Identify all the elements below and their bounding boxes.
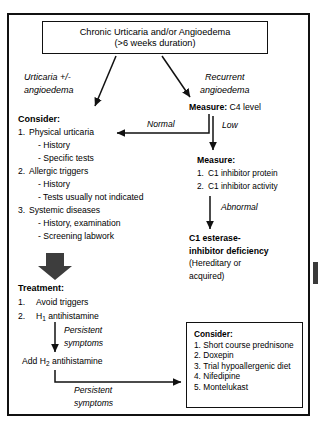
consider-box-item-1: 1. Short course prednisone	[194, 341, 302, 351]
left-item-1-text: Physical urticaria	[29, 127, 94, 137]
deficiency-line-1: C1 esterase-	[189, 233, 241, 243]
treatment-item-1-text: Avoid triggers	[36, 297, 88, 307]
consider-box-item-5: 5. Montelukast	[194, 383, 302, 393]
left-branch-label-line-2: angioedema	[24, 85, 74, 95]
title-line-1: Chronic Urticaria and/or Angioedema	[80, 27, 231, 38]
right-branch-label-line-1: Recurrent	[205, 72, 245, 82]
left-item-2-sub-1: - History	[38, 179, 70, 189]
add-h2-tail: antihistamine	[50, 356, 103, 366]
title-box: Chronic Urticaria and/or Angioedema (>6 …	[42, 21, 268, 54]
left-item-3-text: Systemic diseases	[29, 205, 100, 215]
add-h2-label: Add H	[22, 356, 46, 366]
consider-box-item-3: 3. Trial hypoallergenic diet	[194, 362, 302, 372]
consider-item-3-text: Trial hypoallergenic diet	[203, 361, 290, 371]
consider-item-4-text: Nifedipine	[203, 371, 240, 381]
consider-item-5-num: 5.	[194, 382, 201, 392]
consider-item-3-num: 3.	[194, 361, 201, 371]
deficiency-line-2: inhibitor deficiency	[189, 246, 269, 256]
measure-c4-label: Measure:	[189, 102, 227, 112]
left-branch-label-line-1: Urticaria +/-	[24, 72, 71, 82]
arrow-label-persistent-2-line-1: Persistent	[74, 386, 112, 396]
title-line-2: (>6 weeks duration)	[115, 38, 196, 49]
consider-treatment-box: Consider: 1. Short course prednisone 2. …	[186, 322, 303, 408]
left-item-3-num: 3.	[18, 205, 25, 215]
left-item-2-text: Allergic triggers	[29, 166, 88, 176]
measure2-item-1-text: C1 inhibitor protein	[208, 168, 278, 178]
treatment-heading: Treatment:	[18, 283, 64, 293]
right-branch-label-line-2: angioedema	[200, 85, 250, 95]
arrow-label-low: Low	[222, 121, 238, 131]
consider-item-2-text: Doxepin	[203, 350, 233, 360]
treatment-step-add-h2: Add H2 antihistamine	[22, 356, 103, 367]
consider-item-1-text: Short course prednisone	[203, 340, 293, 350]
deficiency-line-3: (Hereditary or	[189, 259, 241, 269]
consider-box-heading: Consider:	[194, 330, 302, 340]
measure2-item-1-num: 1.	[197, 168, 204, 178]
measure2-item-2-num: 2.	[197, 181, 204, 191]
left-item-3-sub-2: - Screening labwork	[38, 231, 114, 241]
measure-c4: Measure: C4 level	[189, 102, 261, 112]
treatment-item-1-num: 1.	[18, 297, 25, 307]
left-item-3-sub-1: - History, examination	[38, 218, 120, 228]
left-item-2-num: 2.	[18, 166, 25, 176]
measure2-item-2-text: C1 inhibitor activity	[208, 181, 278, 191]
arrow-label-persistent-1-line-2: symptoms	[64, 339, 103, 349]
left-item-1-sub-1: - History	[38, 140, 70, 150]
deficiency-line-4: acquired)	[189, 272, 224, 282]
treatment-item-2-text: H1 antihistamine	[36, 311, 99, 322]
left-item-2-sub-2: - Tests usually not indicated	[38, 192, 143, 202]
left-consider-heading: Consider:	[18, 114, 60, 124]
arrow-label-abnormal: Abnormal	[221, 203, 258, 213]
consider-box-item-2: 2. Doxepin	[194, 351, 302, 361]
h1-tail: antihistamine	[46, 311, 99, 321]
arrow-label-normal: Normal	[147, 120, 175, 130]
measure-c4-value: C4 level	[227, 102, 261, 112]
left-item-1-sub-2: - Specific tests	[38, 153, 94, 163]
page-edge-artifact	[313, 262, 318, 284]
arrow-label-persistent-1-line-1: Persistent	[64, 326, 102, 336]
measure2-heading: Measure:	[197, 155, 235, 165]
consider-item-1-num: 1.	[194, 340, 201, 350]
arrow-label-persistent-2-line-2: symptoms	[74, 399, 113, 409]
consider-item-4-num: 4.	[194, 371, 201, 381]
left-item-1-num: 1.	[18, 127, 25, 137]
treatment-item-2-num: 2.	[18, 311, 25, 321]
consider-item-2-num: 2.	[194, 350, 201, 360]
consider-box-item-4: 4. Nifedipine	[194, 372, 302, 382]
consider-item-5-text: Montelukast	[203, 382, 248, 392]
